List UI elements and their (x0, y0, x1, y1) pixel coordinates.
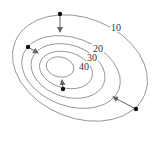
contour-label: 10 (111, 22, 121, 33)
sample-point (61, 87, 65, 91)
contour-label: 40 (79, 61, 89, 72)
contour-diagram: 10203040 (0, 0, 158, 141)
gradient-arrow (113, 97, 136, 109)
sample-point (134, 107, 138, 111)
sample-point (26, 45, 30, 49)
sample-point (58, 12, 62, 16)
contour-line (44, 54, 76, 79)
contour-line (11, 23, 130, 122)
